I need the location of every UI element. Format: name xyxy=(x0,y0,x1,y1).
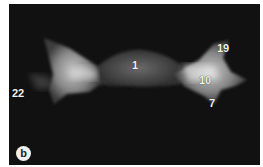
annotation-label-22: 22 xyxy=(12,88,24,99)
annotation-label-7: 7 xyxy=(209,98,215,109)
annotation-label-10: 10 xyxy=(199,75,211,86)
xray-image: 1 19 10 7 22 b xyxy=(9,4,260,165)
annotation-label-1: 1 xyxy=(132,60,138,71)
bone-xray-graphic xyxy=(9,4,260,165)
annotation-label-19: 19 xyxy=(217,43,229,54)
panel-label-badge: b xyxy=(16,146,31,161)
